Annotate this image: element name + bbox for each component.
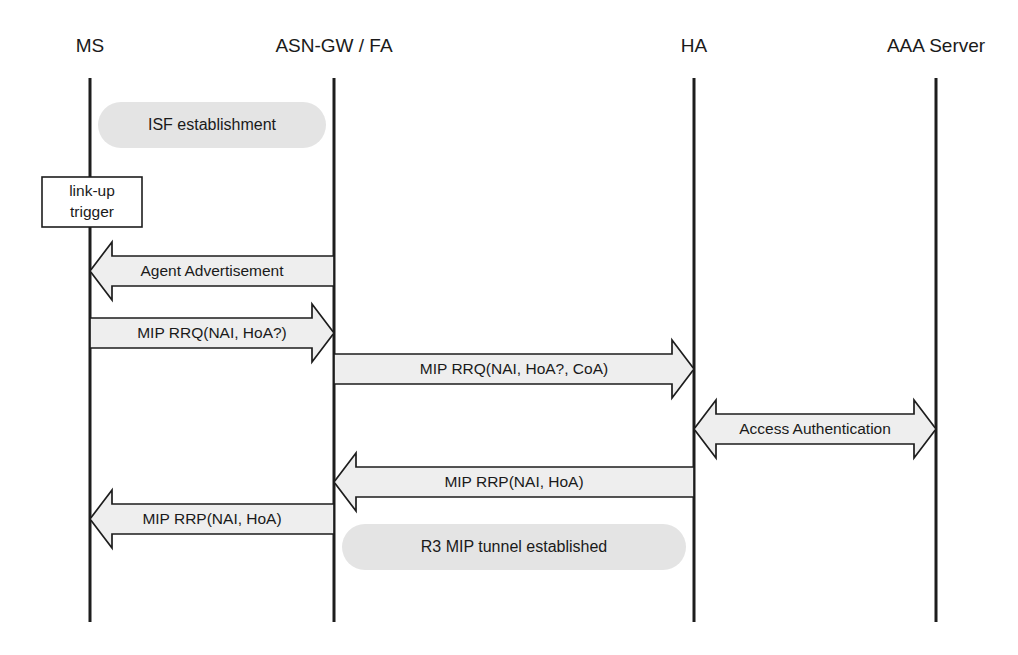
lifeline-label-aaa: AAA Server: [887, 35, 986, 56]
message-label-access-authentication: Access Authentication: [739, 420, 891, 437]
lifeline-label-ms: MS: [76, 35, 105, 56]
sequence-diagram-canvas: ISF establishmentR3 MIP tunnel establish…: [0, 0, 1018, 655]
lifeline-label-ha: HA: [681, 35, 708, 56]
phase-label-r3tunnel: R3 MIP tunnel established: [421, 538, 607, 555]
note-line-link-up-trigger-0: link-up: [69, 182, 115, 199]
note-link-up-trigger: link-uptrigger: [42, 177, 142, 227]
sequence-diagram: ISF establishmentR3 MIP tunnel establish…: [0, 0, 1018, 655]
message-label-mip-rrq-fa-ha: MIP RRQ(NAI, HoA?, CoA): [420, 360, 608, 377]
message-label-mip-rrp-ha-fa: MIP RRP(NAI, HoA): [444, 473, 583, 490]
phase-r3tunnel: R3 MIP tunnel established: [342, 524, 686, 570]
notes-layer: link-uptrigger: [42, 177, 142, 227]
phase-label-isf: ISF establishment: [148, 116, 277, 133]
phase-isf: ISF establishment: [98, 102, 326, 148]
lifeline-label-asngw: ASN-GW / FA: [275, 35, 393, 56]
message-label-agent-advertisement: Agent Advertisement: [140, 262, 284, 279]
note-line-link-up-trigger-1: trigger: [70, 203, 114, 220]
message-label-mip-rrp-fa-ms: MIP RRP(NAI, HoA): [142, 510, 281, 527]
message-label-mip-rrq-ms-fa: MIP RRQ(NAI, HoA?): [137, 324, 287, 341]
